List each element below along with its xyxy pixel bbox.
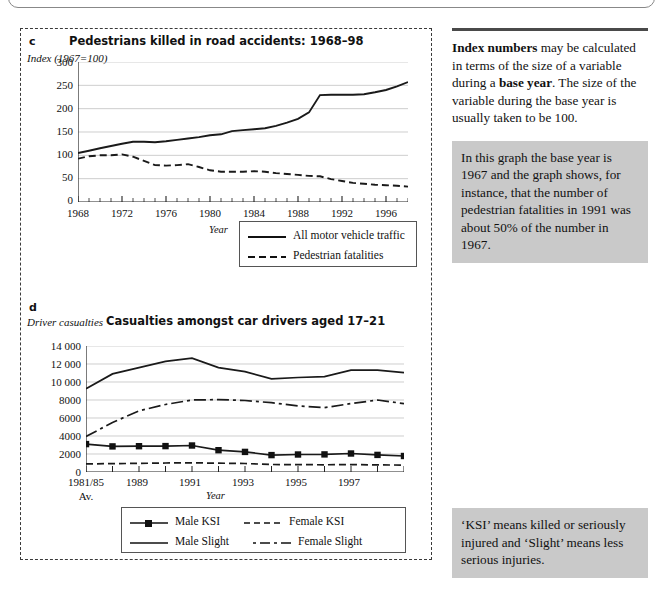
chart-d-series-female-ksi: [86, 463, 404, 465]
chart-c-ytick-250: 250: [45, 79, 73, 91]
chart-c-xtick-1972: 1972: [102, 207, 142, 219]
chart-d-plot-area: [86, 346, 404, 472]
chart-d-y-caption: Driver casualties: [27, 316, 103, 328]
chart-c-svg: [78, 62, 408, 202]
chart-d-x-ticks: [86, 466, 404, 472]
chart-d-legend-label-2: Female KSI: [284, 515, 344, 527]
chart-c-ytick-200: 200: [45, 102, 73, 114]
chart-c-legend-row-1: All motor vehicle traffic: [246, 225, 410, 245]
chart-d-xtick-1981-85-sub: Av.: [57, 490, 115, 502]
chart-d-ytick-14000: 14 000: [33, 340, 81, 352]
legend-swatch-dashed-icon: [246, 249, 288, 261]
top-rule-decoration: [8, 0, 655, 8]
chart-d-legend-label-3: Male Slight: [170, 535, 229, 547]
chart-c-legend-row-2: Pedestrian fatalities: [246, 245, 410, 265]
sidebar-callout-ksi: ‘KSI’ means killed or seriously injured …: [452, 508, 648, 578]
chart-c-panel-letter: c: [29, 35, 36, 48]
chart-c-gridlines: [78, 62, 408, 179]
chart-c-x-title: Year: [209, 224, 228, 235]
chart-d-ytick-12000: 12 000: [33, 358, 81, 370]
sidebar: Index numbers may be calculated in terms…: [452, 28, 648, 263]
chart-d-legend-item-male-slight: Male Slight: [128, 535, 229, 547]
chart-c-xtick-1996: 1996: [366, 207, 406, 219]
chart-c-xtick-1976: 1976: [146, 207, 186, 219]
chart-d-series-male-slight: [86, 358, 404, 389]
chart-c-series-pedestrian-fatalities: [78, 154, 408, 186]
chart-c-legend-label-1: All motor vehicle traffic: [288, 229, 405, 241]
chart-d-legend-item-male-ksi: Male KSI: [128, 515, 220, 527]
chart-d-male-ksi-markers: [86, 441, 404, 459]
legend-swatch-solid-icon: [128, 535, 170, 547]
chart-d-xtick-1981-85: 1981/85: [57, 476, 115, 488]
sidebar-top-rule: [452, 28, 648, 31]
chart-c-ytick-150: 150: [45, 125, 73, 137]
legend-swatch-solid-icon: [246, 229, 288, 241]
chart-d-xtick-1995: 1995: [274, 476, 318, 488]
chart-d-ytick-10000: 10 000: [33, 376, 81, 388]
chart-d-legend: Male KSI Female KSI Male Slight: [121, 507, 406, 553]
sidebar-note-index-numbers: Index numbers may be calculated in terms…: [452, 39, 648, 127]
chart-c-legend-label-2: Pedestrian fatalities: [288, 249, 383, 261]
chart-c-title: Pedestrians killed in road accidents: 19…: [69, 34, 363, 48]
chart-d-ytick-8000: 8000: [33, 394, 81, 406]
chart-d-legend-row-2: Male Slight Female Slight: [128, 531, 399, 551]
legend-swatch-dashdot-icon: [251, 535, 293, 547]
chart-d-legend-label-1: Male KSI: [170, 515, 220, 527]
chart-d-svg: [86, 346, 404, 472]
chart-d-xtick-1997: 1997: [327, 476, 371, 488]
legend-swatch-solid-marker-icon: [128, 515, 170, 527]
chart-d-legend-label-4: Female Slight: [293, 535, 362, 547]
charts-panel: c Pedestrians killed in road accidents: …: [20, 28, 432, 560]
chart-c-legend: All motor vehicle traffic Pedestrian fat…: [239, 221, 417, 267]
chart-d-legend-row-1: Male KSI Female KSI: [128, 511, 399, 531]
chart-d-legend-item-female-ksi: Female KSI: [242, 515, 344, 527]
chart-c-series-all-motor-vehicle-traffic: [78, 82, 408, 153]
chart-d-ytick-4000: 4000: [33, 430, 81, 442]
chart-c-xtick-1984: 1984: [234, 207, 274, 219]
chart-d-x-title: Year: [206, 490, 225, 501]
chart-c-xtick-1968: 1968: [58, 207, 98, 219]
sidebar-callout-base-year: In this graph the base year is 1967 and …: [452, 141, 648, 263]
chart-d-panel-letter: d: [29, 301, 37, 314]
chart-d-ytick-2000: 2000: [33, 448, 81, 460]
chart-c-xtick-1992: 1992: [322, 207, 362, 219]
chart-c-plot-area: [78, 62, 408, 202]
chart-c-ytick-0: 0: [45, 194, 73, 206]
chart-c-xtick-1988: 1988: [278, 207, 318, 219]
chart-d-xtick-1991: 1991: [168, 476, 212, 488]
chart-d-title: Casualties amongst car drivers aged 17–2…: [106, 314, 385, 328]
chart-d-xtick-1989: 1989: [115, 476, 159, 488]
chart-d-ytick-6000: 6000: [33, 412, 81, 424]
chart-c-ytick-100: 100: [45, 148, 73, 160]
chart-c-ytick-50: 50: [45, 171, 73, 183]
chart-d-xtick-1993: 1993: [221, 476, 265, 488]
page-root: c Pedestrians killed in road accidents: …: [0, 0, 663, 592]
sidebar-bottom: ‘KSI’ means killed or seriously injured …: [452, 508, 648, 578]
chart-c-xtick-1980: 1980: [190, 207, 230, 219]
chart-c-ytick-300: 300: [45, 56, 73, 68]
chart-d-legend-item-female-slight: Female Slight: [251, 535, 362, 547]
legend-swatch-dashed-icon: [242, 515, 284, 527]
